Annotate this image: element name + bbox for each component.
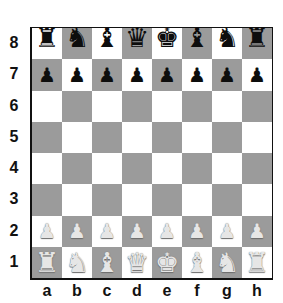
square-a5[interactable] — [32, 122, 62, 153]
square-b1[interactable]: ♞ — [62, 247, 92, 278]
square-f4[interactable] — [182, 153, 212, 184]
black-pawn-icon[interactable]: ♟ — [98, 65, 116, 85]
square-h6[interactable] — [242, 91, 272, 122]
square-h2[interactable]: ♟ — [242, 216, 272, 247]
square-a4[interactable] — [32, 153, 62, 184]
square-b5[interactable] — [62, 122, 92, 153]
rank-3 — [32, 184, 272, 215]
square-b3[interactable] — [62, 184, 92, 215]
square-b4[interactable] — [62, 153, 92, 184]
white-pawn-icon[interactable]: ♟ — [158, 221, 176, 241]
white-rook-icon[interactable]: ♜ — [35, 249, 59, 276]
square-c7[interactable]: ♟ — [92, 59, 122, 90]
square-c1[interactable]: ♝ — [92, 247, 122, 278]
square-d1[interactable]: ♛ — [122, 247, 152, 278]
black-pawn-icon[interactable]: ♟ — [248, 65, 266, 85]
square-g4[interactable] — [212, 153, 242, 184]
square-f3[interactable] — [182, 184, 212, 215]
square-b7[interactable]: ♟ — [62, 59, 92, 90]
square-d3[interactable] — [122, 184, 152, 215]
square-h8[interactable]: ♜ — [242, 28, 272, 59]
white-pawn-icon[interactable]: ♟ — [128, 221, 146, 241]
square-e5[interactable] — [152, 122, 182, 153]
square-c6[interactable] — [92, 91, 122, 122]
square-d5[interactable] — [122, 122, 152, 153]
square-e7[interactable]: ♟ — [152, 59, 182, 90]
square-g7[interactable]: ♟ — [212, 59, 242, 90]
square-b8[interactable]: ♞ — [62, 28, 92, 59]
square-f7[interactable]: ♟ — [182, 59, 212, 90]
black-bishop-icon[interactable]: ♝ — [95, 24, 119, 51]
black-pawn-icon[interactable]: ♟ — [68, 65, 86, 85]
black-king-icon[interactable]: ♚ — [155, 24, 179, 51]
square-d2[interactable]: ♟ — [122, 216, 152, 247]
black-knight-icon[interactable]: ♞ — [65, 24, 89, 51]
square-g2[interactable]: ♟ — [212, 216, 242, 247]
square-g6[interactable] — [212, 91, 242, 122]
white-pawn-icon[interactable]: ♟ — [98, 221, 116, 241]
square-e8[interactable]: ♚ — [152, 28, 182, 59]
black-bishop-icon[interactable]: ♝ — [185, 24, 209, 51]
white-knight-icon[interactable]: ♞ — [65, 249, 89, 276]
square-d6[interactable] — [122, 91, 152, 122]
square-f8[interactable]: ♝ — [182, 28, 212, 59]
black-rook-icon[interactable]: ♜ — [35, 24, 59, 51]
black-pawn-icon[interactable]: ♟ — [188, 65, 206, 85]
square-a8[interactable]: ♜ — [32, 28, 62, 59]
square-h4[interactable] — [242, 153, 272, 184]
square-e6[interactable] — [152, 91, 182, 122]
square-d8[interactable]: ♛ — [122, 28, 152, 59]
rank-5 — [32, 122, 272, 153]
square-a3[interactable] — [32, 184, 62, 215]
white-rook-icon[interactable]: ♜ — [245, 249, 269, 276]
black-pawn-icon[interactable]: ♟ — [38, 65, 56, 85]
square-f1[interactable]: ♝ — [182, 247, 212, 278]
square-a2[interactable]: ♟ — [32, 216, 62, 247]
square-g5[interactable] — [212, 122, 242, 153]
square-e2[interactable]: ♟ — [152, 216, 182, 247]
square-h1[interactable]: ♜ — [242, 247, 272, 278]
white-pawn-icon[interactable]: ♟ — [188, 221, 206, 241]
square-g8[interactable]: ♞ — [212, 28, 242, 59]
white-bishop-icon[interactable]: ♝ — [185, 249, 209, 276]
white-king-icon[interactable]: ♚ — [155, 249, 179, 276]
black-knight-icon[interactable]: ♞ — [215, 24, 239, 51]
black-queen-icon[interactable]: ♛ — [125, 24, 149, 51]
black-pawn-icon[interactable]: ♟ — [128, 65, 146, 85]
square-g1[interactable]: ♞ — [212, 247, 242, 278]
white-pawn-icon[interactable]: ♟ — [248, 221, 266, 241]
square-c4[interactable] — [92, 153, 122, 184]
square-h3[interactable] — [242, 184, 272, 215]
white-pawn-icon[interactable]: ♟ — [218, 221, 236, 241]
square-a1[interactable]: ♜ — [32, 247, 62, 278]
square-h5[interactable] — [242, 122, 272, 153]
square-e3[interactable] — [152, 184, 182, 215]
square-e4[interactable] — [152, 153, 182, 184]
white-bishop-icon[interactable]: ♝ — [95, 249, 119, 276]
square-c8[interactable]: ♝ — [92, 28, 122, 59]
black-pawn-icon[interactable]: ♟ — [218, 65, 236, 85]
square-d4[interactable] — [122, 153, 152, 184]
rank-8: ♜♞♝♛♚♝♞♜ — [32, 28, 272, 59]
white-pawn-icon[interactable]: ♟ — [38, 221, 56, 241]
black-pawn-icon[interactable]: ♟ — [158, 65, 176, 85]
square-g3[interactable] — [212, 184, 242, 215]
square-b6[interactable] — [62, 91, 92, 122]
square-h7[interactable]: ♟ — [242, 59, 272, 90]
square-f5[interactable] — [182, 122, 212, 153]
square-c5[interactable] — [92, 122, 122, 153]
square-c2[interactable]: ♟ — [92, 216, 122, 247]
square-a6[interactable] — [32, 91, 62, 122]
square-c3[interactable] — [92, 184, 122, 215]
white-pawn-icon[interactable]: ♟ — [68, 221, 86, 241]
black-rook-icon[interactable]: ♜ — [245, 24, 269, 51]
square-f6[interactable] — [182, 91, 212, 122]
square-d7[interactable]: ♟ — [122, 59, 152, 90]
rank-label: 6 — [0, 97, 28, 115]
white-queen-icon[interactable]: ♛ — [125, 249, 149, 276]
square-b2[interactable]: ♟ — [62, 216, 92, 247]
white-knight-icon[interactable]: ♞ — [215, 249, 239, 276]
square-f2[interactable]: ♟ — [182, 216, 212, 247]
square-e1[interactable]: ♚ — [152, 247, 182, 278]
square-a7[interactable]: ♟ — [32, 59, 62, 90]
